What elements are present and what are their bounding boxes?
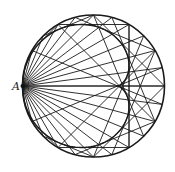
caustic-diagram: A bbox=[0, 0, 175, 172]
label-a: A bbox=[11, 80, 20, 93]
ray-segment bbox=[23, 86, 130, 147]
ray-segment bbox=[23, 25, 130, 86]
ray-segment bbox=[32, 51, 162, 105]
ray-segment bbox=[43, 136, 93, 157]
ray-segment bbox=[43, 15, 93, 36]
ray-segment bbox=[32, 68, 162, 122]
ray-segment bbox=[75, 17, 155, 50]
ray-segment bbox=[75, 122, 155, 155]
source-point-a bbox=[21, 84, 25, 88]
